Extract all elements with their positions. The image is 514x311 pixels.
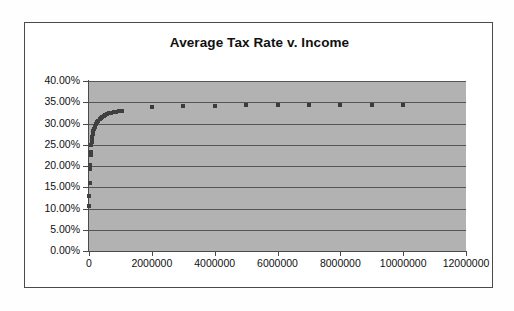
data-point-marker — [181, 104, 185, 108]
x-axis-tick-label: 2000000 — [131, 257, 172, 269]
x-axis-tick-label: 6000000 — [257, 257, 298, 269]
x-axis-tick-label: 12000000 — [443, 257, 490, 269]
scanned-page: Average Tax Rate v. Income 0.00%5.00%10.… — [0, 0, 514, 311]
gridline — [89, 230, 466, 231]
y-axis-tick-label: 10.00% — [24, 202, 80, 214]
x-axis-tick-mark — [215, 252, 216, 256]
x-axis-tick-mark — [466, 252, 467, 256]
data-point-marker — [87, 204, 91, 208]
chart-frame: Average Tax Rate v. Income 0.00%5.00%10.… — [24, 22, 493, 288]
y-axis-tick-mark — [83, 209, 88, 210]
chart-title: Average Tax Rate v. Income — [25, 35, 494, 50]
gridline — [89, 209, 466, 210]
data-point-marker — [150, 105, 154, 109]
y-axis-tick-label: 15.00% — [24, 180, 80, 192]
x-axis-tick-label: 0 — [86, 257, 92, 269]
x-axis-tick-mark — [278, 252, 279, 256]
gridline — [89, 124, 466, 125]
y-axis-tick-mark — [83, 124, 88, 125]
y-axis-tick-label: 0.00% — [24, 244, 80, 256]
y-axis-tick-label: 40.00% — [24, 74, 80, 86]
y-axis-tick-mark — [83, 81, 88, 82]
y-axis-tick-mark — [83, 145, 88, 146]
data-point-marker — [401, 103, 405, 107]
gridline — [89, 145, 466, 146]
data-point-marker — [338, 103, 342, 107]
x-axis-tick-mark — [340, 252, 341, 256]
data-point-marker — [213, 104, 217, 108]
x-axis-tick-mark — [403, 252, 404, 256]
y-axis-tick-label: 5.00% — [24, 223, 80, 235]
y-axis-tick-mark — [83, 251, 88, 252]
data-point-marker — [307, 103, 311, 107]
data-point-marker — [276, 103, 280, 107]
y-axis-tick-mark — [83, 187, 88, 188]
x-axis-tick-label: 4000000 — [194, 257, 235, 269]
y-axis-tick-label: 20.00% — [24, 159, 80, 171]
data-point-marker — [88, 163, 92, 167]
x-axis-tick-mark — [89, 252, 90, 256]
y-axis-tick-label: 30.00% — [24, 117, 80, 129]
gridline — [89, 187, 466, 188]
gridline — [89, 81, 466, 82]
data-point-marker — [370, 103, 374, 107]
data-point-marker — [89, 150, 93, 154]
data-point-marker — [88, 181, 92, 185]
x-axis-tick-label: 8000000 — [320, 257, 361, 269]
gridline — [89, 166, 466, 167]
data-point-marker — [120, 109, 124, 113]
x-axis-tick-mark — [152, 252, 153, 256]
y-axis-tick-label: 25.00% — [24, 138, 80, 150]
y-axis-tick-mark — [83, 230, 88, 231]
x-axis-tick-label: 10000000 — [380, 257, 427, 269]
y-axis-tick-mark — [83, 102, 88, 103]
data-point-marker — [244, 103, 248, 107]
y-axis-tick-label: 35.00% — [24, 95, 80, 107]
data-point-marker — [88, 167, 92, 171]
data-point-marker — [87, 194, 91, 198]
